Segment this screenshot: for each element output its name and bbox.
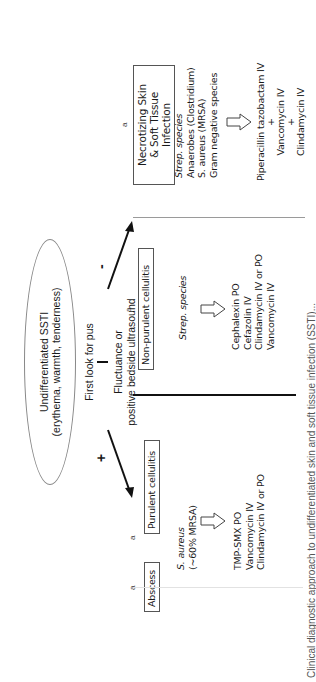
treatment: Cefazolin IV — [242, 254, 254, 350]
criterion-line1: Fluctuance or — [112, 304, 125, 420]
arrow-positive-icon — [100, 422, 150, 502]
purulent-superscript: a — [128, 536, 137, 540]
nonpurulent-superscript: a — [124, 308, 133, 312]
organism: Strep. species — [173, 67, 185, 178]
first-step-label: First look for pus — [83, 304, 96, 420]
treatment: Clindamycin IV — [296, 48, 306, 196]
hollow-arrow-icon — [226, 113, 252, 131]
negative-sign: - — [93, 264, 109, 269]
necrotizing-superscript: a — [120, 123, 129, 127]
criterion-line2: positive bedside ultrasound — [125, 294, 138, 430]
organism: Gram negative species — [208, 67, 220, 178]
hollow-arrow-icon — [200, 300, 226, 318]
treatment: Clindamycin IV or PO — [255, 474, 267, 570]
organism: Strep. species — [177, 276, 189, 340]
organism: Anaerobes (Clostridium) — [185, 67, 197, 178]
root-title: Undifferentiated SSTI — [38, 312, 51, 412]
purulent-treatments: TMP-SMX PO Vancomycin IV Clindamycin IV … — [232, 474, 267, 570]
necrotizing-box: Necrotizing Skin & Soft Tissue Infection — [133, 65, 175, 185]
nonpurulent-label: Non-purulent cellulitis — [140, 265, 151, 365]
root-subtitle: (erythema, warmth, tenderness) — [50, 288, 63, 437]
nonpurulent-box: Non-purulent cellulitis — [138, 248, 154, 370]
treatment: Vancomycin IV — [244, 474, 256, 570]
nonpurulent-treatments: Cephalexin PO Cefazolin IV Clindamycin I… — [230, 254, 276, 350]
figure-caption: Clinical diagnostic approach to undiffer… — [306, 303, 316, 678]
diagram-canvas: Undifferentiated SSTI (erythema, warmth,… — [0, 0, 316, 682]
abscess-label: Abscess — [146, 570, 157, 607]
organism: S. aureus — [175, 505, 187, 570]
organism: (~60% MRSA) — [187, 505, 199, 570]
connector-bar — [97, 361, 108, 363]
purulent-organisms: S. aureus (~60% MRSA) — [175, 505, 198, 570]
treatment: Cephalexin PO — [230, 254, 242, 350]
divider-faint — [133, 587, 303, 588]
nonpurulent-organisms: Strep. species — [177, 276, 189, 340]
treatment: Clindamycin IV or PO — [253, 254, 265, 350]
divider-thick — [133, 394, 296, 396]
treatment: TMP-SMX PO — [232, 474, 244, 570]
necrotizing-treatments: Piperacillin tazobactam IV + Vancomycin … — [256, 48, 306, 196]
treatment: Vancomycin IV — [265, 254, 277, 350]
root-node-ellipse: Undifferentiated SSTI (erythema, warmth,… — [24, 239, 76, 485]
divider-thin — [133, 217, 305, 218]
necrotizing-organisms: Strep. species Anaerobes (Clostridium) S… — [173, 67, 219, 178]
necrotizing-label-line2: & Soft Tissue Infection — [148, 69, 172, 181]
organism: S. aureus (MRSA) — [196, 67, 208, 178]
positive-sign: + — [93, 454, 109, 462]
purulent-label: Purulent cellulitis — [146, 451, 157, 529]
hollow-arrow-icon — [200, 512, 226, 530]
necrotizing-label-line1: Necrotizing Skin — [136, 69, 148, 181]
purulent-box: Purulent cellulitis — [144, 440, 160, 534]
